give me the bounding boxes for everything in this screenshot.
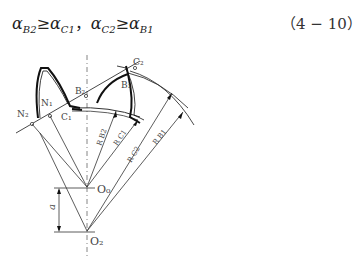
radius-rb2: [87, 111, 116, 187]
arc-rb2: [72, 111, 138, 120]
tooth-left: [37, 68, 80, 118]
label-o0: O₀: [97, 183, 111, 196]
label-o2: O₂: [90, 235, 103, 248]
o2-to-n2: [40, 133, 87, 231]
label-b2: B₂: [75, 86, 86, 96]
label-n2: N₂: [17, 109, 29, 119]
tooth-bottom: [72, 109, 82, 110]
arrow-rb2: [113, 111, 117, 118]
arc-outer-1: [128, 73, 188, 108]
label-n1: N₁: [41, 98, 52, 108]
label-b1: B₁: [121, 80, 131, 90]
label-rb1: R B1: [151, 128, 168, 146]
label-a: a: [46, 204, 57, 210]
line-of-action: [16, 61, 140, 133]
label-rc1: R C1: [112, 128, 128, 147]
label-c1: C₁: [61, 112, 72, 122]
label-rc2: R C2: [126, 145, 142, 164]
label-c2: C₂: [133, 57, 144, 67]
arrow-a-top: [57, 188, 61, 194]
arrow-a-bottom: [57, 226, 61, 232]
arrow-rb1: [178, 112, 183, 119]
label-rb2: R B2: [95, 128, 108, 147]
